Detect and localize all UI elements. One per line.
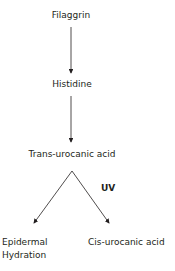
node-filaggrin: Filaggrin: [52, 10, 90, 21]
node-cis-urocanic-acid: Cis-urocanic acid: [88, 237, 165, 248]
arrow-trans-epidermal: [34, 171, 72, 223]
node-epidermal-hydration-line2: Hydration: [2, 250, 46, 261]
arrows-layer: [0, 0, 175, 271]
arrow-trans-cis: [72, 171, 109, 223]
node-trans-urocanic-acid: Trans-urocanic acid: [29, 149, 116, 160]
edge-label-uv: UV: [101, 183, 115, 194]
node-epidermal-hydration-line1: Epidermal: [2, 237, 47, 248]
node-histidine: Histidine: [52, 79, 91, 90]
